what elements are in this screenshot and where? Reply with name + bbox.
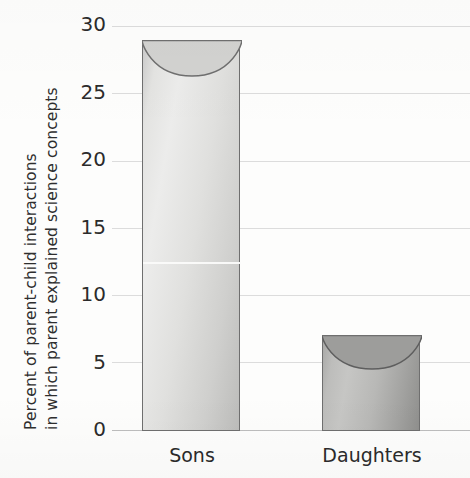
x-tick-label-daughters: Daughters [292,444,452,466]
y-axis-tick-labels: 30 25 20 15 10 5 0 [58,0,106,440]
scan-line-artifact [143,262,241,264]
y-tick-label-25: 25 [60,80,106,104]
y-axis-title: Percent of parent-child interactions in … [0,0,62,440]
y-tick-label-30: 30 [60,12,106,36]
bar-sons [142,40,240,431]
plot-area [112,0,470,432]
bar-sons-top-cap [142,40,240,78]
y-tick-label-20: 20 [60,147,106,171]
y-tick-label-0: 0 [60,417,106,441]
y-tick-label-10: 10 [60,282,106,306]
bar-chart: Percent of parent-child interactions in … [0,0,470,478]
gridline-30 [112,26,470,27]
y-tick-label-5: 5 [60,350,106,374]
bar-daughters-top-cap [322,335,420,371]
bar-daughters [322,335,420,431]
y-axis-title-line-1: Percent of parent-child interactions [22,153,40,430]
x-tick-label-sons: Sons [112,444,272,466]
y-tick-label-15: 15 [60,215,106,239]
